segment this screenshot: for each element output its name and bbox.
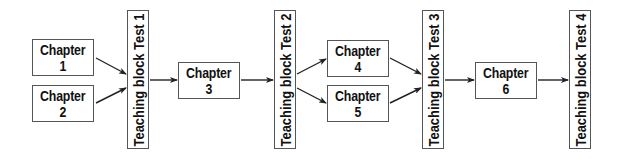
- chapter-4-label: Chapter: [335, 43, 380, 59]
- chapter-5-box: Chapter 5: [327, 85, 389, 122]
- teaching-block-test-1: Teaching block Test 1: [127, 10, 149, 149]
- chapter-6-label: Chapter: [483, 65, 528, 81]
- chapter-2-box: Chapter 2: [32, 85, 94, 122]
- chapter-4-box: Chapter 4: [327, 40, 389, 77]
- teaching-block-test-2: Teaching block Test 2: [274, 10, 296, 149]
- chapter-3-number: 3: [206, 81, 213, 97]
- chapter-5-label: Chapter: [335, 88, 380, 104]
- teaching-block-test-3: Teaching block Test 3: [422, 10, 444, 149]
- course-flow-diagram: Chapter 1 Chapter 2 Chapter 3 Chapter 4 …: [0, 0, 619, 159]
- arrow-t2-to-c5: [297, 88, 326, 103]
- arrow-c4-to-t3: [390, 58, 421, 74]
- chapter-6-box: Chapter 6: [475, 62, 537, 99]
- chapter-2-label: Chapter: [40, 88, 85, 104]
- teaching-block-test-2-label: Teaching block Test 2: [277, 13, 294, 146]
- teaching-block-test-4: Teaching block Test 4: [569, 10, 591, 149]
- arrow-c1-to-t1: [96, 58, 126, 74]
- arrow-c2-to-t1: [96, 88, 126, 103]
- teaching-block-test-3-label: Teaching block Test 3: [425, 13, 442, 146]
- chapter-2-number: 2: [60, 104, 67, 120]
- arrow-c5-to-t3: [390, 88, 421, 103]
- chapter-3-label: Chapter: [186, 65, 231, 81]
- arrow-t2-to-c4: [297, 59, 326, 74]
- teaching-block-test-1-label: Teaching block Test 1: [130, 13, 147, 146]
- chapter-5-number: 5: [355, 104, 362, 120]
- chapter-1-label: Chapter: [40, 42, 85, 58]
- teaching-block-test-4-label: Teaching block Test 4: [572, 13, 589, 146]
- chapter-3-box: Chapter 3: [178, 62, 240, 99]
- chapter-6-number: 6: [503, 81, 510, 97]
- chapter-4-number: 4: [355, 59, 362, 75]
- chapter-1-box: Chapter 1: [32, 39, 94, 76]
- chapter-1-number: 1: [60, 58, 67, 74]
